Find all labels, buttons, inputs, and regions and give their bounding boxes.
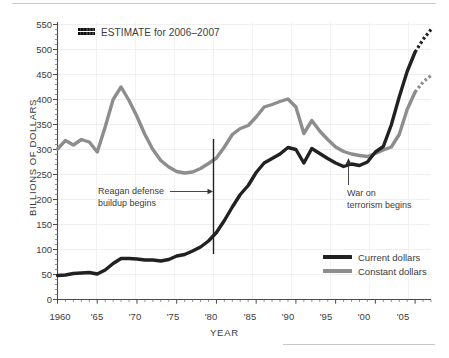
- legend-swatch-current-dollars: [323, 255, 352, 260]
- war-arrow-head: [346, 158, 351, 164]
- grid-horizontal: [57, 25, 431, 275]
- legend-swatch-constant-dollars: [323, 269, 352, 274]
- legend-label-constant-dollars: Constant dollars: [358, 266, 427, 277]
- legend-item-constant-dollars: Constant dollars: [323, 264, 427, 278]
- annotation-line-2: buildup begins: [98, 198, 164, 210]
- legend-item-current-dollars: Current dollars: [323, 250, 427, 264]
- y-major-ticks: [53, 25, 58, 300]
- series-estimate-current-dollars: [415, 30, 431, 53]
- chart-figure: BILLIONS OF DOLLARS YEAR 550 500 450 400…: [0, 0, 449, 358]
- plot-area: [0, 0, 449, 358]
- annotation-reagan-defense-buildup: Reagan defense buildup begins: [98, 186, 164, 209]
- series-line-current-dollars: [58, 52, 416, 276]
- series-line-constant-dollars: [58, 87, 416, 173]
- annotation-line-1: War on: [347, 188, 412, 200]
- series-legend: Current dollars Constant dollars: [323, 250, 427, 278]
- x-major-ticks: [58, 300, 416, 304]
- annotation-line-2: terrorism begins: [347, 200, 412, 212]
- estimate-legend: ESTIMATE for 2006–2007: [78, 27, 220, 38]
- estimate-hatch-swatch-icon: [78, 28, 95, 37]
- legend-label-current-dollars: Current dollars: [358, 252, 420, 263]
- series-estimate-constant-dollars: [415, 76, 431, 93]
- estimate-legend-label: ESTIMATE for 2006–2007: [101, 27, 220, 38]
- reagan-arrow-head: [208, 189, 214, 194]
- annotation-line-1: Reagan defense: [98, 186, 164, 198]
- annotation-war-on-terrorism: War on terrorism begins: [347, 188, 412, 211]
